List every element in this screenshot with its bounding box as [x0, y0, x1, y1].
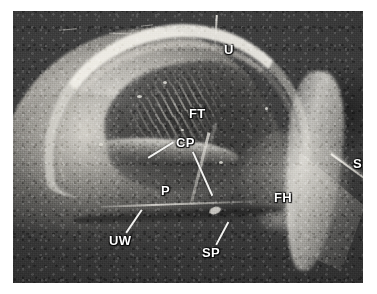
micrograph-plate: U FT CP P UW SP FH S [13, 11, 363, 283]
label-p: P [161, 184, 170, 197]
label-sp: SP [202, 246, 220, 259]
figure-page: U FT CP P UW SP FH S [0, 0, 377, 294]
label-ft: FT [189, 107, 206, 120]
label-cp: CP [176, 136, 195, 149]
label-s: S [353, 157, 362, 170]
label-u: U [224, 43, 234, 56]
label-uw: UW [109, 234, 131, 247]
label-fh: FH [274, 191, 292, 204]
